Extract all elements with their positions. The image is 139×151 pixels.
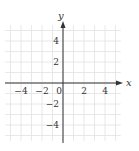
y-axis-arrow-icon [61,21,66,28]
x-axis-label: x [126,77,132,88]
coordinate-plane: x y −4−2024 −4−224 [0,0,139,151]
x-tick-label: 2 [81,86,87,96]
x-tick-labels: −4−2024 [14,86,108,96]
x-tick-label: −2 [35,86,48,96]
x-axis-arrow-icon [116,81,123,86]
x-tick-label: 4 [102,86,108,96]
x-tick-label: 0 [56,86,62,96]
y-tick-label: −2 [46,99,59,109]
y-tick-label: 4 [53,36,59,46]
y-tick-label: 2 [53,57,59,67]
y-axis-label: y [57,10,64,21]
y-tick-label: −4 [46,120,60,130]
x-tick-label: −4 [14,86,28,96]
